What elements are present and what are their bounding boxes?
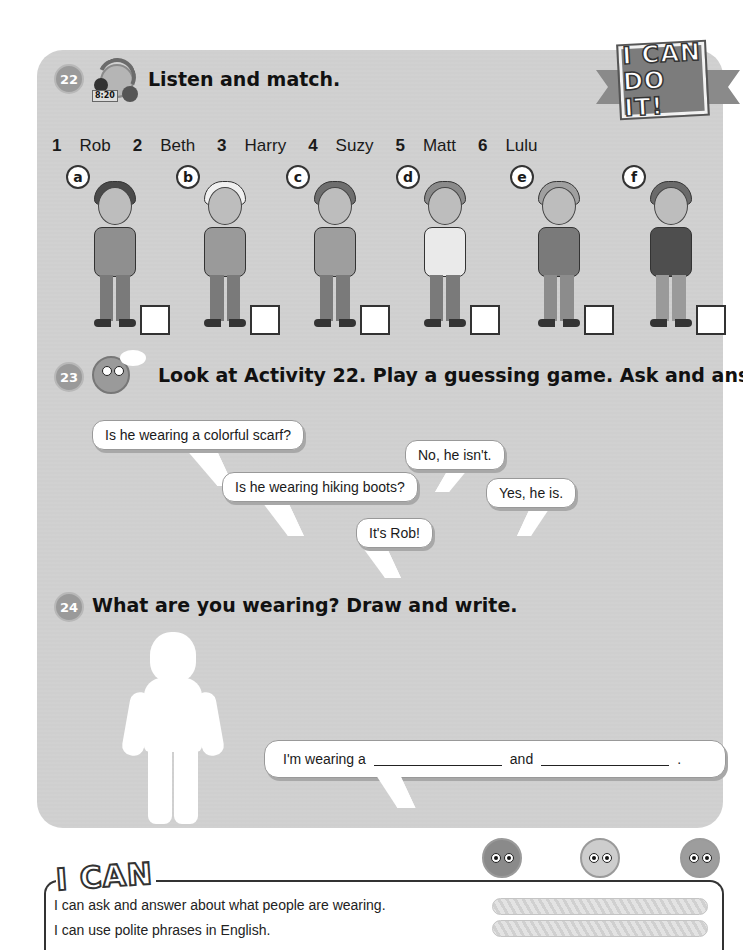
speaking-character-icon	[92, 356, 130, 394]
answer-box[interactable]	[584, 305, 614, 335]
activity-instruction: Listen and match.	[148, 68, 340, 90]
self-assessment-bar[interactable]	[492, 920, 708, 937]
character-b: b	[176, 165, 286, 335]
sentence-end: .	[677, 751, 681, 767]
character-letter: d	[396, 165, 420, 189]
character-figure	[304, 179, 364, 329]
name-item: 2Beth	[133, 136, 195, 156]
answer-box[interactable]	[470, 305, 500, 335]
character-letter: b	[176, 165, 200, 189]
speech-bubble: No, he isn't.	[405, 440, 505, 470]
character-figure	[194, 179, 254, 329]
speech-bubble: Is he wearing hiking boots?	[222, 472, 418, 502]
name-item: 6Lulu	[478, 136, 538, 156]
character-letter: f	[622, 165, 646, 189]
activity-number-badge: 24	[54, 592, 84, 622]
okay-face-icon	[580, 838, 620, 878]
speech-bubble: Is he wearing a colorful scarf?	[92, 420, 304, 450]
sentence-start: I'm wearing a	[283, 751, 366, 767]
sentence-mid: and	[510, 751, 533, 767]
activity-number-badge: 23	[54, 362, 84, 392]
answer-box[interactable]	[250, 305, 280, 335]
i-can-logo: I CAN	[56, 856, 156, 896]
write-sentence-bubble: I'm wearing a and .	[264, 740, 726, 778]
activity-instruction: What are you wearing? Draw and write.	[92, 594, 518, 616]
answer-blank-2[interactable]	[541, 752, 669, 766]
banner-line2: DO IT!	[622, 65, 705, 121]
happy-face-icon	[680, 838, 720, 878]
character-e: e	[510, 165, 620, 335]
name-item: 5Matt	[395, 136, 456, 156]
self-assessment-bar[interactable]	[492, 898, 708, 915]
ican-statement: I can ask and answer about what people a…	[54, 897, 386, 913]
name-list: 1Rob 2Beth 3Harry 4Suzy 5Matt 6Lulu	[52, 136, 732, 156]
answer-box[interactable]	[140, 305, 170, 335]
speech-bubble: Yes, he is.	[486, 478, 576, 508]
track-number: 8:20	[92, 90, 118, 102]
name-item: 1Rob	[52, 136, 111, 156]
character-letter: c	[286, 165, 310, 189]
activity-instruction: Look at Activity 22. Play a guessing gam…	[158, 364, 743, 386]
answer-box[interactable]	[360, 305, 390, 335]
answer-box[interactable]	[696, 305, 726, 335]
character-f: f	[622, 165, 732, 335]
activity-number-badge: 22	[54, 64, 84, 94]
speech-bubble: It's Rob!	[356, 518, 433, 548]
character-letter: e	[510, 165, 534, 189]
name-item: 3Harry	[217, 136, 286, 156]
character-figure	[84, 179, 144, 329]
unsure-face-icon	[482, 838, 522, 878]
ican-statement: I can use polite phrases in English.	[54, 922, 270, 938]
character-figure	[640, 179, 700, 329]
drawing-area-silhouette[interactable]	[118, 632, 228, 832]
character-d: d	[396, 165, 506, 335]
name-item: 4Suzy	[308, 136, 373, 156]
character-a: a	[66, 165, 176, 335]
i-can-do-it-banner: I CAN DO IT!	[608, 40, 728, 120]
character-figure	[528, 179, 588, 329]
headphones-icon[interactable]: 8:20	[92, 56, 140, 104]
character-c: c	[286, 165, 396, 335]
character-figure	[414, 179, 474, 329]
answer-blank-1[interactable]	[374, 752, 502, 766]
character-letter: a	[66, 165, 90, 189]
